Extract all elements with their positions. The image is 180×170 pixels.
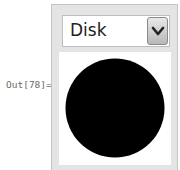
- manipulate-panel: Disk: [51, 4, 178, 170]
- graphics-output: [59, 52, 171, 165]
- dropdown-toggle-button[interactable]: [147, 17, 168, 45]
- disk-shape: [66, 59, 165, 158]
- shape-dropdown[interactable]: Disk: [62, 15, 170, 47]
- chevron-down-icon: [151, 26, 165, 36]
- output-cell-label: Out[78]=: [6, 79, 52, 90]
- dropdown-selected-value: Disk: [70, 20, 107, 40]
